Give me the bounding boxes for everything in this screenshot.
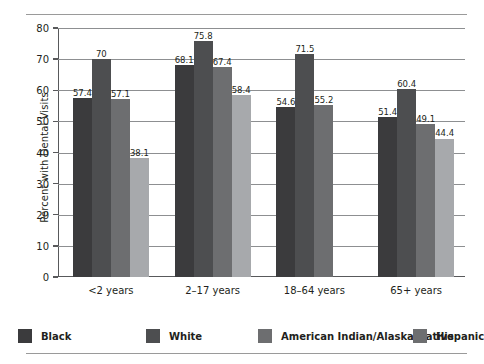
plot-area: 01020304050607080 57.47057.138.1<2 years… xyxy=(58,28,465,277)
legend-label: Hispanic xyxy=(436,331,484,342)
y-tick-label: 50 xyxy=(36,116,49,127)
bar-value-label: 57.4 xyxy=(73,89,92,98)
legend-swatch-icon xyxy=(258,329,272,343)
y-tick-label: 40 xyxy=(36,147,49,158)
bar[interactable]: 54.6 xyxy=(276,107,295,277)
bar-group: 51.460.449.144.465+ years xyxy=(378,28,454,277)
y-tick-label: 0 xyxy=(43,272,49,283)
bottom-divider-rule xyxy=(26,353,467,354)
bar-value-label: 67.4 xyxy=(213,58,232,67)
bar[interactable]: 57.4 xyxy=(73,98,92,277)
legend-item[interactable]: Hispanic xyxy=(413,328,484,344)
y-tick-mark xyxy=(53,276,58,277)
y-tick-mark xyxy=(53,27,58,28)
y-tick-mark xyxy=(53,58,58,59)
bar-value-label: 54.6 xyxy=(276,98,295,107)
bar-value-label: 71.5 xyxy=(295,45,314,54)
legend-item[interactable]: White xyxy=(146,328,202,344)
y-tick-mark xyxy=(53,152,58,153)
bar[interactable]: 38.1 xyxy=(130,158,149,277)
bar[interactable]: 67.4 xyxy=(213,67,232,277)
bar-value-label: 38.1 xyxy=(130,149,149,158)
legend-swatch-icon xyxy=(146,329,160,343)
y-tick-label: 80 xyxy=(36,23,49,34)
bar-group: 57.47057.138.1<2 years xyxy=(73,28,149,277)
y-tick-mark xyxy=(53,183,58,184)
top-divider-rule xyxy=(26,14,467,15)
legend-label: Black xyxy=(41,331,71,342)
bar[interactable]: 70 xyxy=(92,59,111,277)
y-tick-mark xyxy=(53,90,58,91)
y-tick-label: 30 xyxy=(36,178,49,189)
bar-value-label: 51.4 xyxy=(378,108,397,117)
bar-value-label: 70 xyxy=(96,50,107,59)
bar-value-label: 49.1 xyxy=(416,115,435,124)
bar[interactable]: 49.1 xyxy=(416,124,435,277)
bar-group: 54.671.555.218–64 years xyxy=(276,28,352,277)
bar-value-label: 60.4 xyxy=(397,80,416,89)
bar[interactable]: 44.4 xyxy=(435,139,454,277)
bar-value-label: 75.8 xyxy=(194,32,213,41)
bar[interactable]: 75.8 xyxy=(194,41,213,277)
y-tick-label: 70 xyxy=(36,54,49,65)
bar-value-label: 58.4 xyxy=(232,86,251,95)
y-tick-label: 20 xyxy=(36,209,49,220)
x-axis-category-label: 2–17 years xyxy=(175,285,251,296)
x-axis-category-label: 18–64 years xyxy=(276,285,352,296)
x-axis-category-label: <2 years xyxy=(73,285,149,296)
y-tick-mark xyxy=(53,214,58,215)
y-tick-label: 60 xyxy=(36,85,49,96)
bar[interactable]: 58.4 xyxy=(232,95,251,277)
bar[interactable]: 57.1 xyxy=(111,99,130,277)
bar[interactable]: 60.4 xyxy=(397,89,416,277)
x-axis-category-label: 65+ years xyxy=(378,285,454,296)
bar[interactable]: 68.1 xyxy=(175,65,194,277)
legend-item[interactable]: Black xyxy=(18,328,71,344)
legend-swatch-icon xyxy=(413,329,427,343)
bar[interactable]: 55.2 xyxy=(314,105,333,277)
legend-label: White xyxy=(169,331,202,342)
y-tick-mark xyxy=(53,245,58,246)
bar-group: 68.175.867.458.42–17 years xyxy=(175,28,251,277)
chart-legend: BlackWhiteAmerican Indian/Alaska NativeH… xyxy=(18,328,468,346)
bar[interactable]: 71.5 xyxy=(295,54,314,277)
bar-value-label: 68.1 xyxy=(175,56,194,65)
y-tick-mark xyxy=(53,121,58,122)
bar-value-label: 57.1 xyxy=(111,90,130,99)
legend-swatch-icon xyxy=(18,329,32,343)
bar[interactable]: 51.4 xyxy=(378,117,397,277)
y-tick-label: 10 xyxy=(36,240,49,251)
bar-value-label: 44.4 xyxy=(435,129,454,138)
bar-value-label: 55.2 xyxy=(314,96,333,105)
